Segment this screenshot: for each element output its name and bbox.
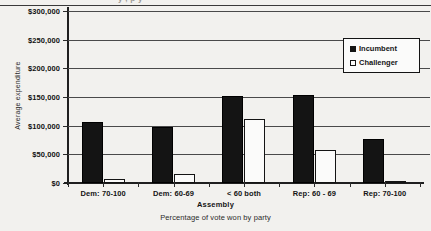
bar-group [138,11,208,183]
bar-incumbent[interactable] [363,139,384,183]
x-axis-tick-mark-mid [385,182,386,187]
legend-swatch-icon-incumbent [350,46,356,52]
bar-challenger[interactable] [385,181,406,183]
x-axis-tick-mark-mid [314,182,315,187]
bar-group [68,11,138,183]
bar-challenger[interactable] [244,119,265,183]
x-axis-category-label: < 60 both [209,189,279,198]
x-axis-tick-mark-mid [103,182,104,187]
x-axis-tick-mark [420,182,421,187]
x-axis-category-label: Rep: 70-100 [350,189,420,198]
y-axis-tick-labels: $0$50,000$100,000$150,000$200,000$250,00… [0,0,64,231]
x-axis-tick-mark [138,182,139,187]
x-axis-tick-mark-mid [174,182,175,187]
y-axis-tick-label: $150,000 [0,93,60,102]
bar-group [209,11,279,183]
legend-swatch-icon-challenger [350,60,356,66]
bar-challenger[interactable] [174,174,195,183]
y-axis-tick-label: $300,000 [0,7,60,16]
x-axis-category-label: Dem: 70-100 [68,189,138,198]
legend-label-challenger: Challenger [359,58,398,67]
x-axis-title: Percentage of vote won by party [0,213,431,222]
cropped-title-remnant: y , p y [118,0,368,3]
y-axis-tick-label: $100,000 [0,121,60,130]
group-label-assembly: Assembly [0,200,431,209]
bar-group [279,11,349,183]
legend-label-incumbent: Incumbent [359,44,397,53]
chart-figure: y , p y Average expenditure $0$50,000$10… [0,0,431,231]
x-axis-tick-mark [68,182,69,187]
x-axis-tick-mark [279,182,280,187]
x-axis-tick-mark-mid [244,182,245,187]
x-axis-category-label: Rep: 60 - 69 [279,189,349,198]
bar-challenger[interactable] [104,179,125,183]
bar-incumbent[interactable] [82,122,103,183]
y-axis-tick-label: $50,000 [0,150,60,159]
bar-incumbent[interactable] [293,95,314,183]
x-axis-tick-mark [350,182,351,187]
plot-area [68,11,420,183]
chart-legend: Incumbent Challenger [343,38,420,73]
bar-challenger[interactable] [315,150,336,183]
legend-entry-challenger: Challenger [350,58,398,67]
x-axis-category-label: Dem: 60-69 [138,189,208,198]
y-axis-tick-label: $250,000 [0,35,60,44]
y-axis-tick-label: $0 [0,179,60,188]
top-horizontal-rule [0,5,431,6]
y-axis-tick-label: $200,000 [0,64,60,73]
bar-incumbent[interactable] [152,127,173,183]
x-axis-tick-mark [209,182,210,187]
bar-group [350,11,420,183]
bar-incumbent[interactable] [222,96,243,183]
legend-entry-incumbent: Incumbent [350,44,397,53]
